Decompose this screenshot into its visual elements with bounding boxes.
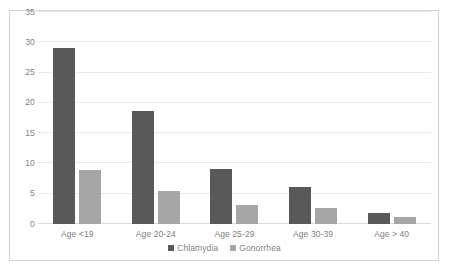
- y-axis-tick-label: 35: [25, 8, 35, 17]
- bar-chlamydia-1[interactable]: [132, 111, 154, 224]
- bar-group-bars: [274, 12, 353, 224]
- bar-group-bars: [117, 12, 196, 224]
- bar-gonorrhea-1[interactable]: [158, 191, 180, 224]
- bar-chart: 05101520253035 Age <19Age 20-24Age 25-29…: [0, 0, 449, 278]
- x-axis-tick-label: Age <19: [38, 226, 117, 242]
- bar-group: [195, 12, 274, 224]
- bar-gonorrhea-2[interactable]: [236, 205, 258, 224]
- y-axis-tick-label: 5: [30, 189, 35, 198]
- x-axis-tick-label: Age > 40: [352, 226, 431, 242]
- bar-group: [352, 12, 431, 224]
- legend-swatch-icon: [230, 245, 236, 251]
- bar-group-bars: [195, 12, 274, 224]
- legend-label: Gonorrhea: [239, 244, 281, 253]
- bar-gonorrhea-0[interactable]: [79, 170, 101, 225]
- legend-item-gonorrhea[interactable]: Gonorrhea: [230, 244, 281, 253]
- bar-group-bars: [38, 12, 117, 224]
- x-axis-tick-label: Age 25-29: [195, 226, 274, 242]
- bar-group: [274, 12, 353, 224]
- legend: ChlamydiaGonorrhea: [0, 244, 449, 253]
- bar-gonorrhea-4[interactable]: [394, 217, 416, 224]
- bar-gonorrhea-3[interactable]: [315, 208, 337, 224]
- y-axis-tick-label: 25: [25, 68, 35, 77]
- y-axis-tick-label: 10: [25, 159, 35, 168]
- bar-group: [117, 12, 196, 224]
- y-axis-tick-label: 30: [25, 38, 35, 47]
- bar-groups: [38, 12, 431, 224]
- bar-chlamydia-0[interactable]: [53, 48, 75, 224]
- bar-chlamydia-4[interactable]: [368, 213, 390, 224]
- x-axis: Age <19Age 20-24Age 25-29Age 30-39Age > …: [38, 226, 431, 242]
- bar-group: [38, 12, 117, 224]
- y-axis-tick-label: 0: [30, 220, 35, 229]
- bar-group-bars: [352, 12, 431, 224]
- x-axis-tick-label: Age 20-24: [117, 226, 196, 242]
- bar-chlamydia-3[interactable]: [289, 187, 311, 224]
- y-axis-tick-label: 20: [25, 99, 35, 108]
- x-axis-tick-label: Age 30-39: [274, 226, 353, 242]
- y-axis: 05101520253035: [9, 12, 35, 224]
- bar-chlamydia-2[interactable]: [210, 169, 232, 224]
- legend-label: Chlamydia: [177, 244, 218, 253]
- y-axis-tick-label: 15: [25, 129, 35, 138]
- legend-swatch-icon: [168, 245, 174, 251]
- legend-item-chlamydia[interactable]: Chlamydia: [168, 244, 218, 253]
- plot-area: [38, 12, 431, 224]
